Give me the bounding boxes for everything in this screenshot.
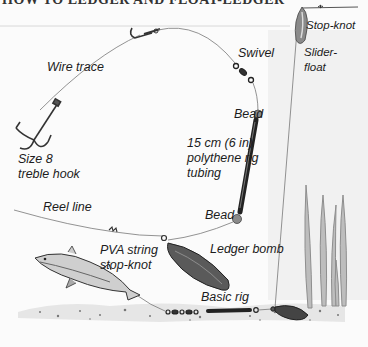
- label-bead-bottom: Bead: [205, 208, 234, 223]
- label-pva-line1: PVA string: [100, 243, 158, 258]
- label-basic-rig: Basic rig: [201, 290, 249, 305]
- label-tubing-line1: 15 cm (6 in): [187, 136, 253, 151]
- basic-rig-tubing: [208, 310, 250, 311]
- label-reel-line: Reel line: [43, 200, 92, 215]
- swivel-icon: [234, 64, 254, 83]
- label-wire-trace: Wire trace: [47, 60, 104, 75]
- label-tubing-line2: polythene rig: [187, 151, 259, 166]
- label-slider-float-line2: float: [304, 60, 326, 75]
- label-ledger-bomb: Ledger bomb: [210, 242, 284, 257]
- label-stop-knot-top: Stop-knot: [306, 18, 355, 33]
- label-hook-line2: treble hook: [18, 167, 80, 182]
- label-hook-line1: Size 8: [18, 152, 53, 167]
- label-bead-top: Bead: [234, 107, 263, 122]
- label-slider-float-line1: Slider-: [304, 45, 337, 60]
- label-pva-line2: stop-knot: [100, 258, 151, 273]
- fishing-rig-diagram: HOW TO LEDGER AND FLOAT-LEDGER: [0, 0, 368, 347]
- label-swivel: Swivel: [238, 46, 274, 61]
- rig-tubing: [240, 120, 256, 212]
- label-tubing-line3: tubing: [187, 166, 221, 181]
- treble-hook-icon: [16, 99, 61, 149]
